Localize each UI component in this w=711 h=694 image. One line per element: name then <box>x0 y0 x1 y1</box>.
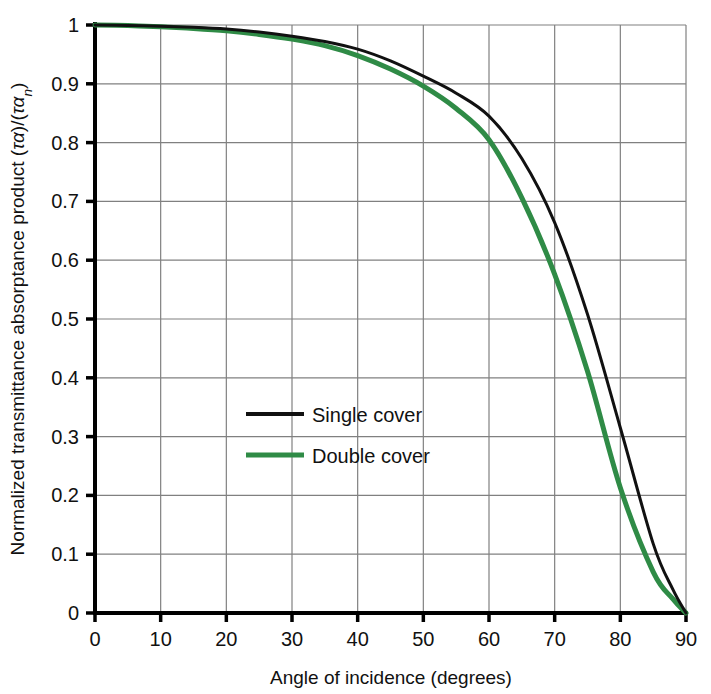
x-tick-label: 60 <box>478 628 500 650</box>
x-tick-label: 50 <box>412 628 434 650</box>
y-tick-label: 0.3 <box>51 426 79 448</box>
x-tick-label: 30 <box>281 628 303 650</box>
x-tick-label: 20 <box>215 628 237 650</box>
x-tick-label: 90 <box>675 628 697 650</box>
y-tick-label: 1 <box>68 14 79 36</box>
y-tick-label: 0.5 <box>51 308 79 330</box>
x-tick-label: 0 <box>89 628 100 650</box>
x-tick-label: 40 <box>347 628 369 650</box>
y-tick-label: 0.8 <box>51 132 79 154</box>
x-tick-label: 80 <box>609 628 631 650</box>
legend-label-single-cover: Single cover <box>312 404 422 426</box>
y-tick-label: 0.2 <box>51 484 79 506</box>
x-axis-title: Angle of incidence (degrees) <box>270 667 512 688</box>
y-tick-label: 0.9 <box>51 73 79 95</box>
y-tick-label: 0 <box>68 602 79 624</box>
legend-label-double-cover: Double cover <box>312 445 430 467</box>
chart-background <box>0 0 711 694</box>
x-tick-label: 70 <box>544 628 566 650</box>
y-tick-label: 0.7 <box>51 190 79 212</box>
x-tick-label: 10 <box>150 628 172 650</box>
y-tick-label: 0.4 <box>51 367 79 389</box>
chart-figure: 0102030405060708090 00.10.20.30.40.50.60… <box>0 0 711 694</box>
y-tick-label: 0.6 <box>51 249 79 271</box>
normalized-transmittance-absorptance-chart: 0102030405060708090 00.10.20.30.40.50.60… <box>0 0 711 694</box>
y-tick-label: 0.1 <box>51 543 79 565</box>
